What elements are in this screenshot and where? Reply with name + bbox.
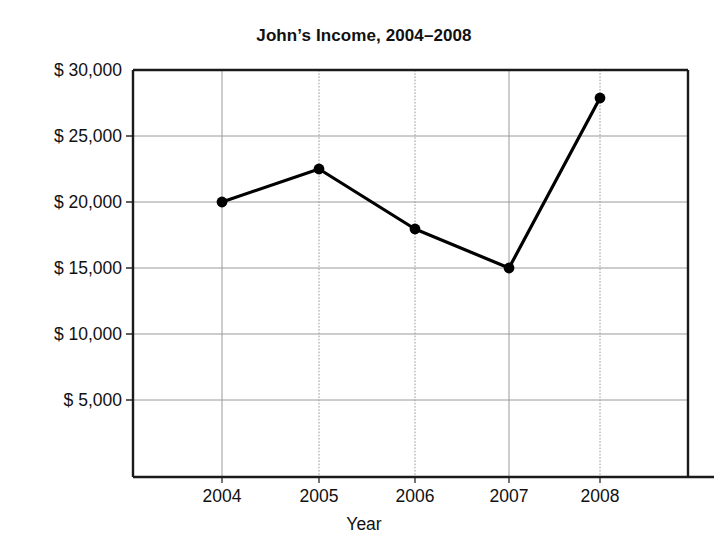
x-tick-label-2005: 2005 — [300, 486, 339, 507]
y-tick-label-10000: $ 10,000 — [0, 324, 122, 345]
y-tick-label-20000: $ 20,000 — [0, 192, 122, 213]
y-tick-label-30000: $ 30,000 — [0, 60, 122, 81]
plot-area — [0, 0, 728, 557]
data-point-2007 — [504, 263, 515, 274]
y-tick-label-25000: $ 25,000 — [0, 126, 122, 147]
data-point-2005 — [314, 164, 325, 175]
x-tick-label-2008: 2008 — [581, 486, 620, 507]
x-tick-label-2007: 2007 — [490, 486, 529, 507]
plot-frame — [133, 70, 714, 477]
vertical-gridlines — [222, 70, 600, 477]
data-point-2008 — [595, 93, 606, 104]
x-tick-label-2006: 2006 — [396, 486, 435, 507]
x-tick-label-2004: 2004 — [203, 486, 242, 507]
horizontal-gridlines — [133, 136, 688, 400]
income-line — [222, 98, 600, 268]
y-tick-label-5000: $ 5,000 — [0, 390, 122, 411]
data-point-2004 — [217, 197, 228, 208]
data-point-2006 — [410, 224, 421, 235]
y-tick-label-15000: $ 15,000 — [0, 258, 122, 279]
x-axis-label: Year — [0, 514, 728, 535]
income-line-chart: John’s Income, 2004–2008 — [0, 0, 728, 557]
